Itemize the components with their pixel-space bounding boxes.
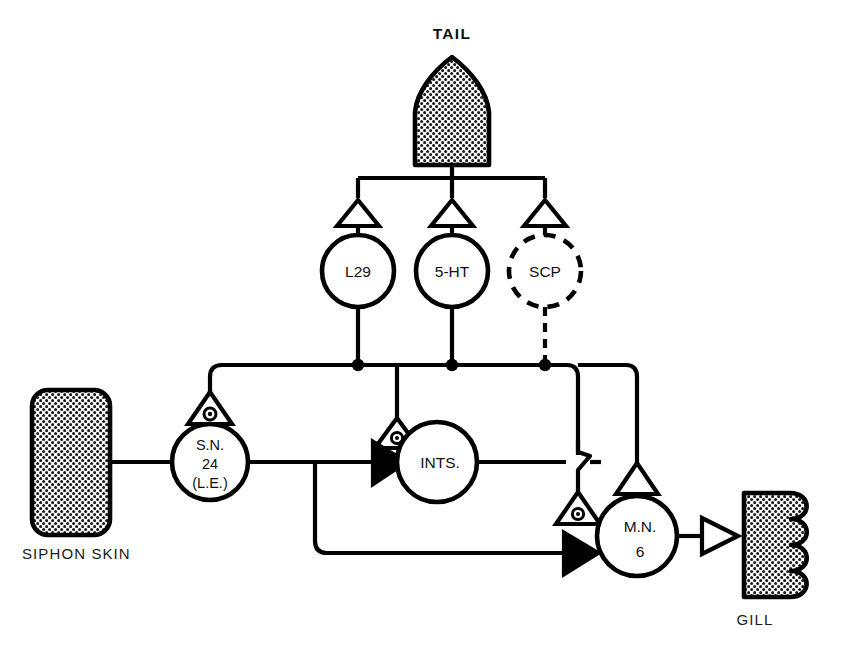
organ-tail	[415, 57, 489, 165]
neural-circuit-diagram: TAIL SIPHON SKIN GILL	[0, 0, 844, 656]
synapse-mod-onto-mn6	[556, 492, 600, 524]
neuron-sn24-label-line2: 24	[202, 456, 218, 472]
mod-dot-core-mn6-icon	[576, 512, 580, 516]
siphon-skin-shape	[32, 390, 110, 535]
mod-dot-core-ints-icon	[395, 436, 399, 440]
siphon-skin-label: SIPHON SKIN	[22, 545, 131, 562]
synapse-tail-to-l29-open-triangle-icon	[337, 200, 379, 226]
neuron-sn24-label-line1: S.N.	[196, 437, 224, 453]
junction-dot-l29	[352, 359, 364, 371]
junction-dot-5ht	[446, 359, 458, 371]
tail-label: TAIL	[433, 25, 472, 42]
synapse-mn6-to-gill-open-triangle-icon	[702, 518, 738, 554]
synapse-tail-to-scp-open-triangle-icon	[524, 200, 566, 226]
neuron-mn6-soma[interactable]	[597, 496, 677, 576]
gill-label: GILL	[737, 611, 774, 628]
organ-gill	[744, 493, 807, 597]
neuron-5ht-label: 5-HT	[435, 263, 470, 280]
organ-siphon-skin	[32, 390, 110, 535]
synapse-tail-to-5ht-open-triangle-icon	[431, 200, 473, 226]
neuron-mn6-label-line2: 6	[636, 543, 645, 560]
mod-dot-core-sn24-icon	[208, 412, 212, 416]
synapse-mod-onto-sn24	[188, 392, 232, 424]
neuron-sn24-label-line3: (L.E.)	[192, 475, 227, 491]
wire-bus-to-mn6-exc	[578, 365, 637, 463]
synapse-sn24-to-mn6-filled-triangle-icon	[563, 531, 600, 576]
neuron-scp-label: SCP	[529, 263, 561, 280]
synapse-ints-to-mn6-open-triangle-icon	[616, 463, 658, 494]
tail-shape	[415, 57, 489, 165]
junction-dot-scp	[539, 359, 551, 371]
gill-shape	[744, 493, 807, 597]
wire-bus-crossing-jog	[578, 440, 590, 492]
neuron-l29-label: L29	[345, 263, 371, 280]
diagram-canvas: TAIL SIPHON SKIN GILL	[0, 0, 844, 656]
neuron-ints-label: INTS.	[420, 454, 460, 471]
neuron-mn6-label-line1: M.N.	[624, 518, 657, 535]
